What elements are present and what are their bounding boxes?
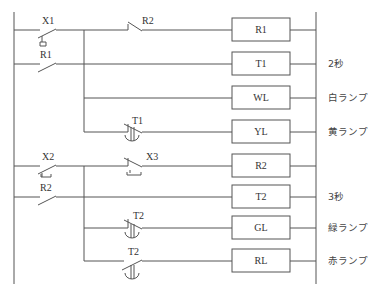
note-wl: 白ランプ <box>328 92 368 103</box>
timer-icon <box>125 127 139 141</box>
note-rl: 赤ランプ <box>328 255 368 266</box>
rung-6: R2 T2 3秒 <box>14 166 344 261</box>
note-t1: 2秒 <box>328 58 344 69</box>
rung-3: WL 白ランプ <box>84 86 368 109</box>
t2-no-contact-icon <box>122 260 142 270</box>
r2-label: R2 <box>40 182 52 193</box>
rung-4: T1 YL 黄ランプ <box>84 115 368 143</box>
svg-text:R2: R2 <box>255 160 267 171</box>
rung-8: T2 RL 赤ランプ <box>84 246 368 279</box>
r2-nc-label: R2 <box>142 15 154 26</box>
r2-contact-icon <box>38 196 56 205</box>
t1-label: T1 <box>132 115 143 126</box>
t2-nc-label: T2 <box>133 210 144 221</box>
rung-2: R1 T1 2秒 <box>14 30 344 132</box>
x2-label: X2 <box>42 151 54 162</box>
svg-text:YL: YL <box>254 126 267 137</box>
note-gl: 緑ランプ <box>328 222 368 233</box>
rung-1: X1 R2 R1 <box>14 15 316 46</box>
svg-text:T2: T2 <box>255 191 266 202</box>
rung-5: X2 X3 R2 <box>14 151 316 177</box>
r2-nc-contact-icon <box>128 22 142 31</box>
pushbutton-icon <box>127 170 141 175</box>
svg-text:T1: T1 <box>255 58 266 69</box>
note-t2: 3秒 <box>328 191 344 202</box>
t2-no-label: T2 <box>128 246 139 257</box>
svg-text:GL: GL <box>254 222 267 233</box>
note-yl: 黄ランプ <box>328 126 368 137</box>
x3-label: X3 <box>146 151 158 162</box>
svg-text:R1: R1 <box>255 24 267 35</box>
ladder-diagram: X1 R2 R1 R1 T1 2秒 WL 白ランプ T1 <box>0 0 375 294</box>
r1-label: R1 <box>40 49 52 60</box>
r1-contact-icon <box>38 63 56 72</box>
pushbutton-icon <box>40 36 46 46</box>
x1-contact-icon <box>38 29 56 38</box>
pushbutton-icon <box>41 173 51 177</box>
svg-text:RL: RL <box>255 255 268 266</box>
svg-text:WL: WL <box>253 92 269 103</box>
x1-label: X1 <box>42 15 54 26</box>
rung-7: T2 GL 緑ランプ <box>84 210 368 239</box>
x2-contact-icon <box>38 165 56 174</box>
